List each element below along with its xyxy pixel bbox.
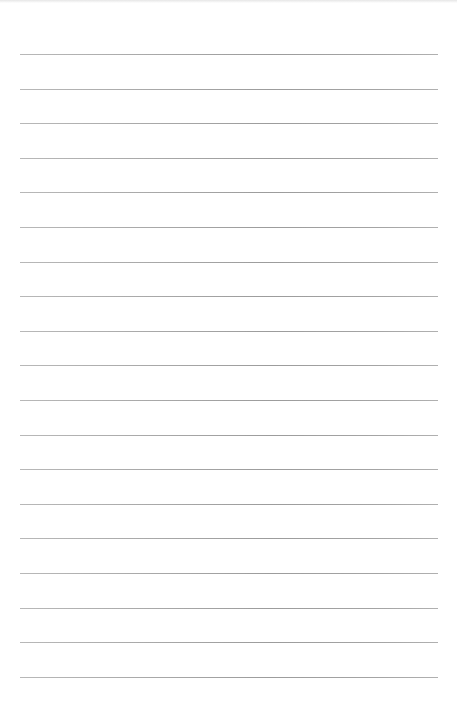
ruled-line <box>20 469 438 470</box>
ruled-line <box>20 262 438 263</box>
page-top-edge <box>0 0 457 3</box>
ruled-line <box>20 89 438 90</box>
ruled-line <box>20 158 438 159</box>
ruled-line <box>20 538 438 539</box>
ruled-line <box>20 677 438 678</box>
ruled-line <box>20 642 438 643</box>
ruled-line <box>20 573 438 574</box>
ruled-line <box>20 608 438 609</box>
ruled-line <box>20 227 438 228</box>
ruled-line <box>20 504 438 505</box>
ruled-line <box>20 54 438 55</box>
ruled-line <box>20 435 438 436</box>
ruled-line <box>20 123 438 124</box>
ruled-line <box>20 365 438 366</box>
ruled-line <box>20 296 438 297</box>
ruled-line <box>20 192 438 193</box>
ruled-line <box>20 400 438 401</box>
ruled-line <box>20 331 438 332</box>
